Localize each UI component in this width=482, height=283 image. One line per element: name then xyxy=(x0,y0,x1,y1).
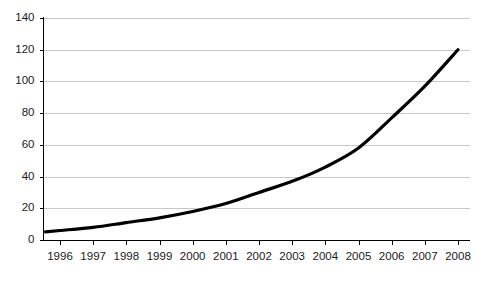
line-chart: 020406080100120140 199619971998199920002… xyxy=(0,0,482,283)
y-tick-label: 40 xyxy=(22,170,35,182)
y-tick-label: 100 xyxy=(15,74,34,86)
x-tick-label: 1999 xyxy=(147,250,173,262)
x-tick-label: 2008 xyxy=(445,250,471,262)
x-tick-label: 2005 xyxy=(346,250,372,262)
y-tick-label: 20 xyxy=(22,201,35,213)
x-tick-label: 2001 xyxy=(213,250,239,262)
x-tick-label: 2000 xyxy=(180,250,206,262)
y-tick-label: 0 xyxy=(28,233,34,245)
y-tick-label: 60 xyxy=(22,138,35,150)
x-tick-label: 2004 xyxy=(313,250,339,262)
y-tick-label: 140 xyxy=(15,11,34,23)
y-tick-label: 120 xyxy=(15,43,34,55)
y-tick-label: 80 xyxy=(22,106,35,118)
x-tick-label: 2003 xyxy=(279,250,305,262)
x-tick-label: 1996 xyxy=(47,250,73,262)
x-tick-label: 2002 xyxy=(246,250,272,262)
x-tick-label: 2007 xyxy=(412,250,438,262)
chart-canvas: 020406080100120140 199619971998199920002… xyxy=(0,0,482,283)
x-tick-label: 1997 xyxy=(80,250,106,262)
x-tick-label: 1998 xyxy=(114,250,140,262)
x-tick-label: 2006 xyxy=(379,250,405,262)
